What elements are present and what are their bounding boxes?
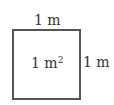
area-label: 1 m2 — [31, 56, 63, 70]
right-side-label: 1 m — [83, 55, 110, 69]
area-label-exponent: 2 — [58, 55, 64, 65]
top-side-label: 1 m — [34, 13, 61, 27]
area-label-base: 1 m — [31, 55, 58, 71]
